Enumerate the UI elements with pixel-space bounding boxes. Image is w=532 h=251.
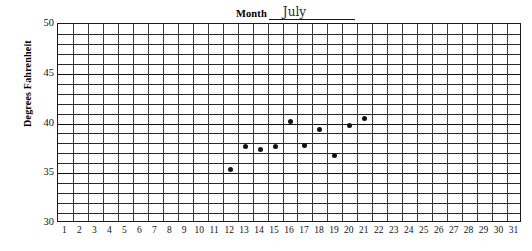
plot-area [57, 23, 521, 222]
grid-line-vertical [148, 24, 149, 221]
grid-line-vertical [462, 24, 463, 221]
grid-line-horizontal [58, 153, 520, 154]
grid-line-horizontal [58, 44, 520, 45]
grid-line-vertical [283, 24, 284, 221]
grid-line-horizontal [58, 163, 520, 164]
month-blank-line: July [269, 5, 355, 20]
y-axis-tick: 35 [30, 167, 54, 177]
grid-line-horizontal [58, 114, 520, 115]
x-axis-tick-labels: 1234567891011121314151617181920212223242… [57, 225, 521, 241]
grid-line-vertical [477, 24, 478, 221]
data-point [228, 167, 233, 172]
data-point [243, 144, 248, 149]
grid-line-horizontal [58, 183, 520, 184]
data-point [288, 119, 293, 124]
grid-line-horizontal [58, 34, 520, 35]
y-axis-tick-labels: 3035404550 [30, 23, 54, 222]
data-point [273, 144, 278, 149]
grid-line-vertical [447, 24, 448, 221]
grid-line-vertical [432, 24, 433, 221]
grid-line-vertical [297, 24, 298, 221]
grid-line-vertical [133, 24, 134, 221]
y-axis-tick: 30 [30, 217, 54, 227]
grid-line-vertical [342, 24, 343, 221]
grid-line-vertical [223, 24, 224, 221]
grid-line-vertical [387, 24, 388, 221]
grid-line-horizontal [58, 203, 520, 204]
grid-line-vertical [402, 24, 403, 221]
grid-line-vertical [118, 24, 119, 221]
grid-line-vertical [73, 24, 74, 221]
grid-line-vertical [507, 24, 508, 221]
temperature-chart-page: Month July Degrees Fahrenheit 3035404550… [0, 0, 532, 251]
grid-line-vertical [312, 24, 313, 221]
grid-line-vertical [357, 24, 358, 221]
grid-line-vertical [208, 24, 209, 221]
grid-line-horizontal [58, 104, 520, 105]
grid-line-horizontal [58, 213, 520, 214]
grid-line-vertical [268, 24, 269, 221]
grid-line-horizontal [58, 64, 520, 65]
grid-line-horizontal [58, 193, 520, 194]
grid-line-vertical [417, 24, 418, 221]
grid-line-vertical [492, 24, 493, 221]
grid-line-vertical [103, 24, 104, 221]
data-point [258, 147, 263, 152]
grid-line-horizontal [58, 54, 520, 55]
grid-line-horizontal [58, 173, 520, 174]
grid-line-vertical [238, 24, 239, 221]
grid-line-horizontal [58, 84, 520, 85]
grid-line-horizontal [58, 74, 520, 75]
month-label: Month [236, 8, 267, 20]
grid-line-vertical [193, 24, 194, 221]
x-axis-tick: 31 [505, 225, 523, 235]
grid-line-vertical [178, 24, 179, 221]
y-axis-tick: 45 [30, 68, 54, 78]
grid-line-horizontal [58, 143, 520, 144]
grid-line-vertical [163, 24, 164, 221]
grid-line-vertical [253, 24, 254, 221]
y-axis-tick: 50 [30, 18, 54, 28]
grid-line-horizontal [58, 133, 520, 134]
chart-title: Month July [236, 2, 436, 20]
month-value: July [283, 5, 306, 19]
grid-line-vertical [88, 24, 89, 221]
y-axis-tick: 40 [30, 118, 54, 128]
grid-line-vertical [372, 24, 373, 221]
grid-line-horizontal [58, 94, 520, 95]
grid-line-vertical [327, 24, 328, 221]
